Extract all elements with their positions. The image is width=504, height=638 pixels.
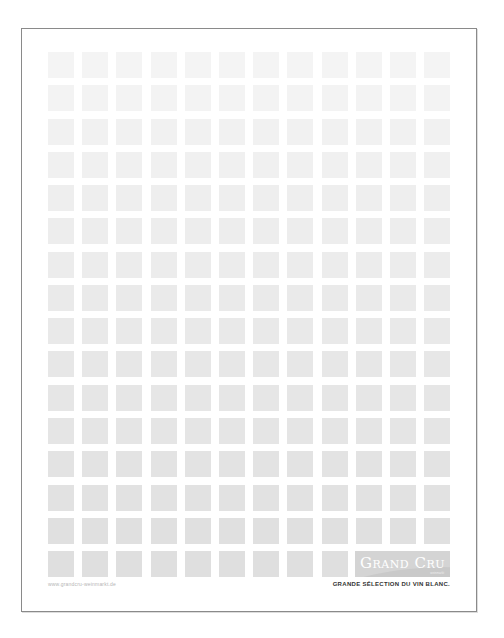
pattern-square	[82, 85, 108, 111]
pattern-square	[116, 218, 142, 244]
pattern-square	[219, 318, 245, 344]
pattern-square	[322, 119, 348, 145]
pattern-square	[287, 385, 313, 411]
pattern-square	[151, 551, 177, 577]
pattern-square	[82, 285, 108, 311]
pattern-square	[287, 185, 313, 211]
pattern-square	[185, 152, 211, 178]
pattern-square	[219, 185, 245, 211]
pattern-square	[82, 152, 108, 178]
footer-url: www.grandcru-weinmarkt.de	[48, 581, 116, 587]
pattern-square	[390, 152, 416, 178]
pattern-square	[287, 252, 313, 278]
footer-tagline: GRANDE SÉLECTION DU VIN BLANC.	[333, 581, 450, 587]
pattern-square	[185, 119, 211, 145]
pattern-square	[48, 385, 74, 411]
pattern-square	[322, 351, 348, 377]
pattern-square	[48, 218, 74, 244]
pattern-square	[356, 152, 382, 178]
pattern-square	[82, 52, 108, 78]
pattern-square	[82, 451, 108, 477]
pattern-square	[219, 485, 245, 511]
pattern-square	[116, 518, 142, 544]
pattern-square	[48, 351, 74, 377]
pattern-square	[253, 518, 279, 544]
pattern-square	[185, 85, 211, 111]
brand-subtitle: weinmarkt	[430, 571, 444, 575]
pattern-square	[424, 185, 450, 211]
pattern-square	[390, 518, 416, 544]
pattern-square	[322, 385, 348, 411]
pattern-square	[219, 85, 245, 111]
pattern-square	[287, 318, 313, 344]
pattern-square	[185, 351, 211, 377]
pattern-square	[151, 218, 177, 244]
pattern-square	[116, 285, 142, 311]
pattern-square	[48, 318, 74, 344]
pattern-square	[253, 418, 279, 444]
pattern-square	[253, 351, 279, 377]
pattern-square	[287, 485, 313, 511]
pattern-square	[151, 252, 177, 278]
pattern-square	[424, 451, 450, 477]
pattern-square	[82, 551, 108, 577]
pattern-square	[48, 119, 74, 145]
pattern-square	[356, 85, 382, 111]
pattern-square	[424, 418, 450, 444]
pattern-square	[390, 351, 416, 377]
pattern-square	[356, 119, 382, 145]
pattern-square	[253, 285, 279, 311]
pattern-square	[390, 119, 416, 145]
pattern-square	[356, 285, 382, 311]
pattern-square	[253, 485, 279, 511]
pattern-square	[151, 518, 177, 544]
pattern-square	[424, 218, 450, 244]
pattern-square	[287, 418, 313, 444]
pattern-square	[48, 451, 74, 477]
pattern-square	[322, 218, 348, 244]
pattern-square	[151, 451, 177, 477]
pattern-square	[390, 385, 416, 411]
pattern-square	[82, 218, 108, 244]
pattern-square	[116, 252, 142, 278]
pattern-square	[151, 351, 177, 377]
pattern-square	[322, 318, 348, 344]
pattern-square	[82, 518, 108, 544]
pattern-square	[287, 451, 313, 477]
pattern-square	[390, 285, 416, 311]
brand-name: Grand Cru	[355, 554, 450, 572]
pattern-square	[390, 418, 416, 444]
pattern-square	[390, 85, 416, 111]
pattern-square	[219, 119, 245, 145]
pattern-square	[287, 285, 313, 311]
pattern-square	[219, 252, 245, 278]
pattern-square	[151, 152, 177, 178]
pattern-square	[253, 551, 279, 577]
pattern-square	[390, 451, 416, 477]
pattern-square	[219, 285, 245, 311]
pattern-square	[253, 152, 279, 178]
pattern-square	[116, 185, 142, 211]
pattern-square	[287, 551, 313, 577]
pattern-square	[116, 152, 142, 178]
pattern-square	[287, 518, 313, 544]
pattern-square	[253, 185, 279, 211]
pattern-square	[287, 152, 313, 178]
pattern-square	[322, 551, 348, 577]
pattern-square	[424, 385, 450, 411]
pattern-square	[219, 551, 245, 577]
pattern-square	[151, 485, 177, 511]
pattern-square	[48, 285, 74, 311]
pattern-square	[356, 218, 382, 244]
pattern-square	[322, 451, 348, 477]
pattern-square	[390, 485, 416, 511]
pattern-square	[116, 451, 142, 477]
pattern-square	[424, 285, 450, 311]
pattern-square	[287, 218, 313, 244]
pattern-square	[116, 351, 142, 377]
pattern-square	[219, 451, 245, 477]
pattern-square	[219, 152, 245, 178]
pattern-square	[82, 418, 108, 444]
pattern-square	[322, 85, 348, 111]
pattern-square	[253, 451, 279, 477]
